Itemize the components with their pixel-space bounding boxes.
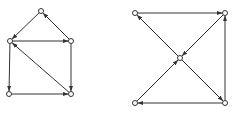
- edge-e-to-b: [12, 43, 69, 92]
- node-e: [69, 92, 74, 97]
- edge-m-to-s: [182, 60, 223, 101]
- node-q: [223, 11, 228, 16]
- directed-graphs-diagram: [0, 0, 233, 125]
- graphs-container: [7, 9, 228, 106]
- edge-c-to-a: [43, 13, 69, 39]
- node-s: [223, 101, 228, 106]
- node-b: [8, 39, 13, 44]
- edge-a-to-b: [12, 13, 39, 39]
- node-p: [133, 11, 138, 16]
- edge-b-to-d: [9, 43, 10, 91]
- node-d: [7, 92, 12, 97]
- edge-m-to-p: [137, 15, 178, 56]
- node-r: [133, 101, 138, 106]
- edge-r-to-m: [137, 60, 178, 101]
- right-graph: [133, 11, 228, 106]
- edge-q-to-m: [182, 15, 223, 56]
- node-c: [69, 39, 74, 44]
- node-a: [39, 9, 44, 14]
- node-m: [178, 56, 183, 61]
- left-graph: [7, 9, 74, 97]
